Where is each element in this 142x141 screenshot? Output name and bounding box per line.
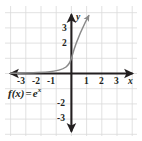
x-tick-label-1: 1 xyxy=(84,77,89,87)
x-tick-label-3: 3 xyxy=(114,77,119,87)
x-axis-label: x xyxy=(128,77,133,87)
y-tick-label-2: 2 xyxy=(62,39,67,49)
function-equation-label: f(x)=ex xyxy=(8,88,41,99)
x-tick-label-neg2: -2 xyxy=(32,77,40,87)
y-tick-label-3: 3 xyxy=(62,24,67,34)
exponential-exponent: x xyxy=(38,86,42,94)
y-axis-label: y xyxy=(76,13,80,23)
y-tick-label-neg3: -3 xyxy=(57,114,65,124)
coordinate-plane xyxy=(0,0,142,141)
y-tick-label-neg2: -2 xyxy=(57,99,65,109)
x-tick-label-2: 2 xyxy=(99,77,104,87)
exponential-function-graph: -3 -2 -1 1 2 3 x 2 3 -2 -3 y f(x)=ex xyxy=(0,0,142,141)
function-notation: f(x) xyxy=(8,87,25,99)
x-tick-label-neg3: -3 xyxy=(17,77,25,87)
x-tick-label-neg1: -1 xyxy=(47,77,55,87)
equals-sign: = xyxy=(25,87,33,99)
